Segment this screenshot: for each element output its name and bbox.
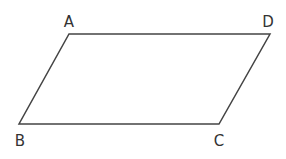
vertex-label-d: D (262, 13, 274, 31)
parallelogram-abcd (19, 34, 270, 124)
vertex-label-c: C (214, 132, 224, 150)
vertex-label-a: A (64, 13, 75, 31)
parallelogram-diagram: A D C B (0, 0, 286, 159)
vertex-label-b: B (15, 132, 25, 150)
